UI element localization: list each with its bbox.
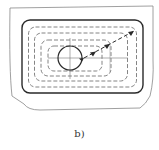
arrowhead-icon [128,31,134,36]
offset-contour-4 [48,46,102,71]
arrowhead-icon [79,58,84,62]
arrowhead-icon [104,44,110,49]
figure-caption: b) [0,128,159,139]
